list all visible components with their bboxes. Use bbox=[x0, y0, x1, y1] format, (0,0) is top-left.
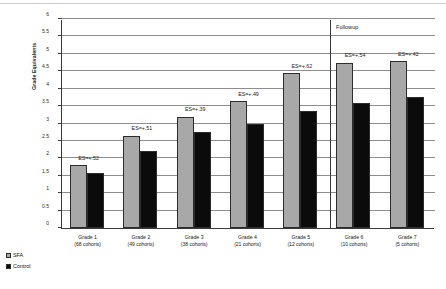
plot-area: 00.511.522.533.544.555.56 ES=+.52ES=+.51… bbox=[61, 20, 434, 229]
bar-group bbox=[222, 19, 275, 228]
y-axis-tick-label: 4 bbox=[46, 81, 49, 86]
legend-item-sfa: SFA bbox=[6, 250, 58, 261]
y-axis-tick-label: 5 bbox=[46, 46, 49, 51]
legend-swatch-sfa bbox=[6, 253, 11, 258]
bar-sfa bbox=[230, 101, 247, 228]
effect-size-label: ES=+.42 bbox=[382, 52, 435, 57]
y-axis-tick-label: 1.5 bbox=[42, 168, 49, 173]
y-axis-tick-label: 4.5 bbox=[42, 64, 49, 69]
effect-size-label: ES=+.54 bbox=[328, 53, 381, 58]
x-axis-category-label: Grade 5(12 cohorts) bbox=[274, 234, 327, 248]
legend-swatch-control bbox=[6, 264, 11, 269]
bar-group bbox=[115, 19, 168, 228]
bar-sfa bbox=[70, 165, 87, 228]
effect-size-label: ES=+.39 bbox=[169, 107, 222, 112]
bar-control bbox=[194, 132, 211, 228]
y-axis-tick-label: 3 bbox=[46, 116, 49, 121]
x-axis-category-cohorts: (12 cohorts) bbox=[274, 241, 327, 248]
x-axis-category-label: Grade 4(21 cohorts) bbox=[221, 234, 274, 248]
x-axis-category-label: Grade 7(5 cohorts) bbox=[381, 234, 434, 248]
bar-sfa bbox=[283, 73, 300, 228]
x-axis-category-name: Grade 7 bbox=[398, 234, 417, 240]
bar-sfa bbox=[177, 117, 194, 228]
bar-sfa bbox=[336, 63, 353, 228]
x-axis-category-name: Grade 3 bbox=[185, 234, 204, 240]
legend-label-control: Control bbox=[13, 261, 30, 272]
bar-control bbox=[247, 124, 264, 229]
bar-group bbox=[328, 19, 381, 228]
x-axis-category-cohorts: (5 cohorts) bbox=[381, 241, 434, 248]
legend-item-control: Control bbox=[6, 261, 58, 272]
x-axis-category-label: Grade 2(49 cohorts) bbox=[114, 234, 167, 248]
x-axis-category-name: Grade 1 bbox=[78, 234, 97, 240]
x-axis-category-name: Grade 4 bbox=[238, 234, 257, 240]
y-axis-tick-label: 2.5 bbox=[42, 133, 49, 138]
y-axis-title: Grade Equivalents bbox=[31, 0, 37, 90]
y-axis-tick-label: 1 bbox=[46, 186, 49, 191]
bar-control bbox=[87, 173, 104, 228]
y-axis-tick-label: 2 bbox=[46, 151, 49, 156]
x-axis-category-cohorts: (21 cohorts) bbox=[221, 241, 274, 248]
x-axis-category-cohorts: (49 cohorts) bbox=[114, 241, 167, 248]
x-axis-category-cohorts: (10 cohorts) bbox=[327, 241, 380, 248]
bar-control bbox=[407, 97, 424, 228]
bar-group bbox=[275, 19, 328, 228]
effect-size-label: ES=+.49 bbox=[222, 92, 275, 97]
y-axis-tick-label: 6 bbox=[46, 12, 49, 17]
bar-group bbox=[62, 19, 115, 228]
y-axis-tick-label: 5.5 bbox=[42, 29, 49, 34]
y-axis-tick-label: 0.5 bbox=[42, 203, 49, 208]
bar-control bbox=[140, 151, 157, 228]
scan-artifact-line bbox=[0, 3, 446, 4]
x-axis-category-label: Grade 1(68 cohorts) bbox=[61, 234, 114, 248]
legend-label-sfa: SFA bbox=[13, 250, 23, 261]
effect-size-label: ES=+.52 bbox=[62, 156, 115, 161]
x-axis-category-label: Grade 3(38 cohorts) bbox=[168, 234, 221, 248]
x-axis-category-label: Grade 6(10 cohorts) bbox=[327, 234, 380, 248]
bar-sfa bbox=[390, 61, 407, 228]
effect-size-label: ES=+.51 bbox=[115, 126, 168, 131]
x-axis-category-name: Grade 5 bbox=[291, 234, 310, 240]
chart-figure: Grade Equivalents 00.511.522.533.544.555… bbox=[0, 0, 446, 289]
y-axis-tick-label: 3.5 bbox=[42, 99, 49, 104]
x-axis-category-name: Grade 6 bbox=[345, 234, 364, 240]
bar-control bbox=[300, 111, 317, 228]
x-axis-category-name: Grade 2 bbox=[132, 234, 151, 240]
effect-size-label: ES=+.62 bbox=[275, 64, 328, 69]
x-axis-category-cohorts: (38 cohorts) bbox=[168, 241, 221, 248]
bar-control bbox=[353, 103, 370, 228]
x-axis-category-cohorts: (68 cohorts) bbox=[61, 241, 114, 248]
chart-legend: SFAControl bbox=[6, 250, 58, 272]
y-axis-tick-label: 0 bbox=[46, 221, 49, 226]
followup-label: Followup bbox=[336, 24, 358, 30]
bar-sfa bbox=[123, 136, 140, 228]
bar-group bbox=[169, 19, 222, 228]
